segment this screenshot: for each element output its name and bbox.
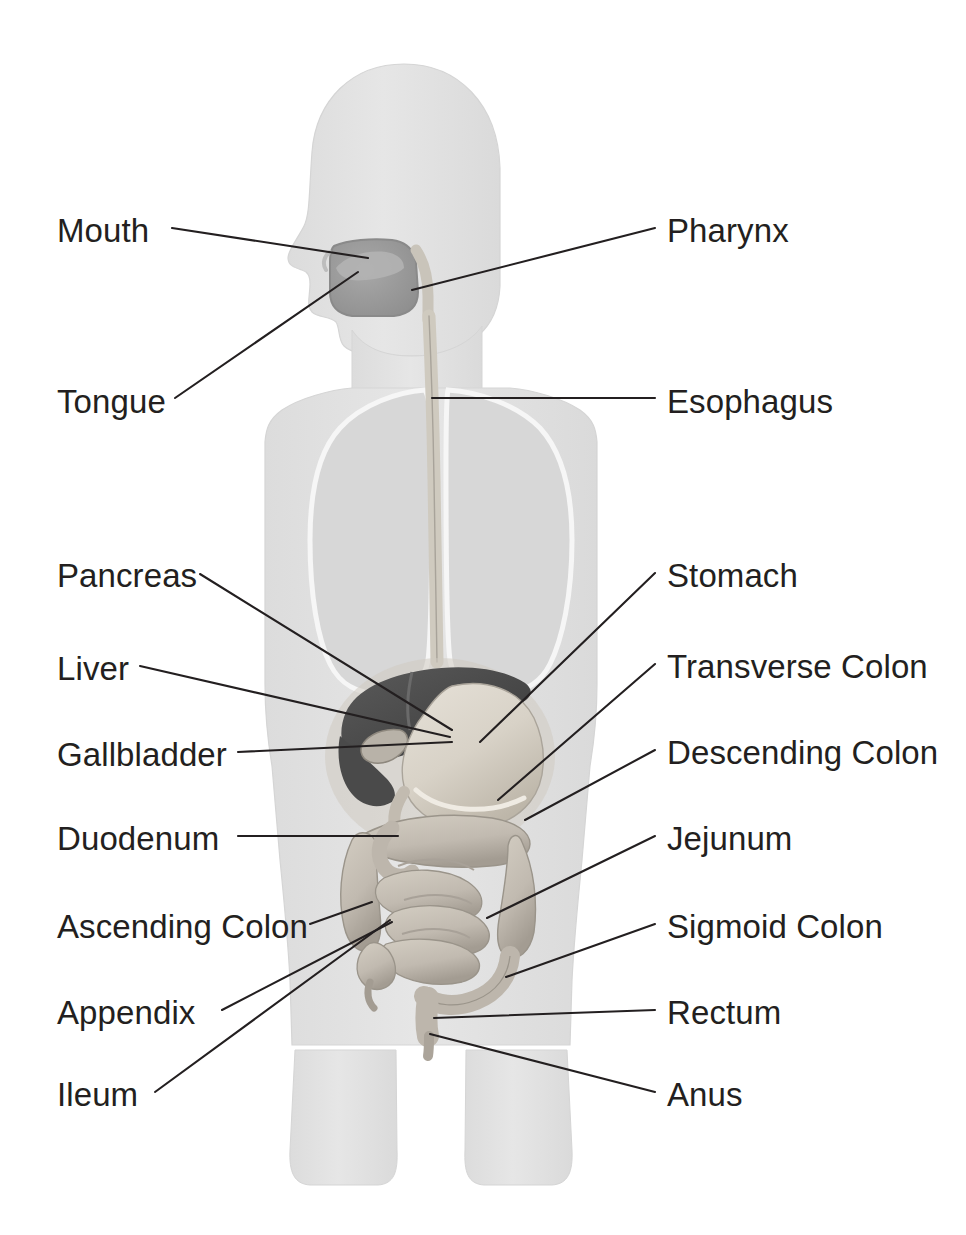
oral-cavity-group <box>324 239 428 320</box>
label-duodenum: Duodenum <box>57 822 219 855</box>
label-appendix: Appendix <box>57 996 195 1029</box>
digestive-system-diagram: MouthTonguePancreasLiverGallbladderDuode… <box>0 0 966 1235</box>
label-descending-colon: Descending Colon <box>667 736 938 769</box>
anus <box>428 1036 429 1056</box>
label-mouth: Mouth <box>57 214 149 247</box>
label-transverse-colon: Transverse Colon <box>667 650 928 683</box>
anatomy-illustration <box>0 0 966 1235</box>
esophagus <box>429 316 437 662</box>
label-ascending-colon: Ascending Colon <box>57 910 308 943</box>
rectum <box>427 998 429 1036</box>
label-rectum: Rectum <box>667 996 781 1029</box>
label-tongue: Tongue <box>57 385 166 418</box>
label-stomach: Stomach <box>667 559 798 592</box>
label-liver: Liver <box>57 652 129 685</box>
label-gallbladder: Gallbladder <box>57 738 227 771</box>
label-sigmoid-colon: Sigmoid Colon <box>667 910 883 943</box>
left-leg-silhouette <box>290 1050 397 1185</box>
label-pancreas: Pancreas <box>57 559 197 592</box>
leader-line-tongue <box>175 272 358 398</box>
label-jejunum: Jejunum <box>667 822 792 855</box>
label-ileum: Ileum <box>57 1078 138 1111</box>
label-anus: Anus <box>667 1078 743 1111</box>
right-leg-silhouette <box>465 1050 572 1185</box>
label-pharynx: Pharynx <box>667 214 789 247</box>
label-esophagus: Esophagus <box>667 385 833 418</box>
